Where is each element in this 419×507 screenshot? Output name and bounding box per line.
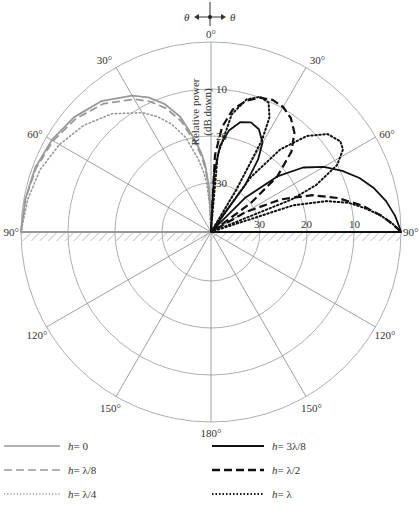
arrow-right-icon xyxy=(221,14,226,20)
series-curve xyxy=(211,97,401,232)
grid-spoke xyxy=(211,232,306,397)
svg-text:(dB down): (dB down) xyxy=(201,88,214,136)
angle-label: 30° xyxy=(310,54,325,66)
angle-label: 150° xyxy=(100,402,121,414)
theta-left-label: θ xyxy=(184,11,190,23)
direction-indicator: θ θ xyxy=(184,2,236,26)
series-curve xyxy=(21,96,211,232)
angle-label: 150° xyxy=(301,402,322,414)
radial-axis-label: Relative power (dB down) xyxy=(189,78,214,145)
angle-label: 60° xyxy=(379,128,394,140)
angle-label: 120° xyxy=(26,329,47,341)
svg-text:Relative power: Relative power xyxy=(189,78,201,145)
angle-label: 0° xyxy=(206,28,216,40)
angle-label: 90° xyxy=(4,226,19,238)
series-curve xyxy=(21,113,211,232)
radial-tick-30: 30 xyxy=(216,177,228,189)
radial-tick-h-30: 30 xyxy=(254,218,266,230)
angle-label: 180° xyxy=(201,427,222,439)
arrow-left-icon xyxy=(194,14,199,20)
radial-tick-10: 10 xyxy=(216,83,228,95)
ground-plane-hatch xyxy=(21,233,401,241)
angle-label: 30° xyxy=(97,54,112,66)
grid-spoke xyxy=(116,232,211,397)
grid-spoke xyxy=(46,232,211,327)
radial-tick-20: 20 xyxy=(216,130,228,142)
radial-tick-h-10: 10 xyxy=(349,218,361,230)
angle-label: 90° xyxy=(403,226,418,238)
radial-tick-h-20: 20 xyxy=(301,218,313,230)
polar-radiation-chart: 0°30°30°60°60°90°90°120°120°150°150°180°… xyxy=(0,0,419,507)
theta-right-label: θ xyxy=(230,11,236,23)
angle-label: 120° xyxy=(375,329,396,341)
grid-spoke xyxy=(211,232,376,327)
grid-spoke xyxy=(46,137,211,232)
angle-label: 60° xyxy=(27,128,42,140)
